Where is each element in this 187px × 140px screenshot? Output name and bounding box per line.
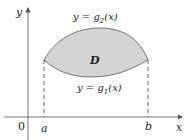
upper-curve-label: y = g2(x) — [73, 12, 118, 25]
origin-label: 0 — [18, 121, 25, 132]
lower-curve-label: y = g1(x) — [77, 83, 122, 96]
region-d — [44, 28, 148, 77]
y-axis-label: y — [16, 7, 22, 18]
bound-b-label: b — [145, 121, 152, 132]
region-label: D — [90, 55, 100, 66]
x-axis-label: x — [176, 122, 182, 133]
bound-a-label: a — [41, 123, 48, 134]
